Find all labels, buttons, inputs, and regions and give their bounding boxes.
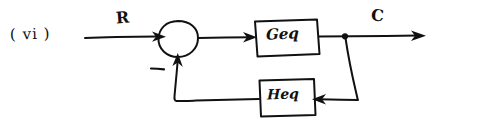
error-signal-line	[198, 32, 257, 42]
output-signal-label: C	[370, 8, 384, 25]
case-number-label: ( vi )	[10, 26, 51, 42]
feedback-sign-minus	[151, 69, 164, 70]
feedback-path-block-label: Heq	[267, 86, 299, 101]
summing-junction[interactable]	[158, 21, 198, 57]
block-diagram-canvas: ( vi ) R C Geq Heq	[0, 0, 491, 124]
feedback-return-line	[312, 94, 358, 104]
input-signal-line	[85, 32, 166, 42]
feedback-path-line	[172, 53, 259, 101]
feedback-drop-line	[346, 38, 358, 100]
input-signal-label: R	[115, 10, 129, 27]
forward-path-block-label: Geq	[266, 26, 299, 43]
diagram-sketch	[0, 0, 491, 124]
output-signal-line	[319, 30, 426, 41]
